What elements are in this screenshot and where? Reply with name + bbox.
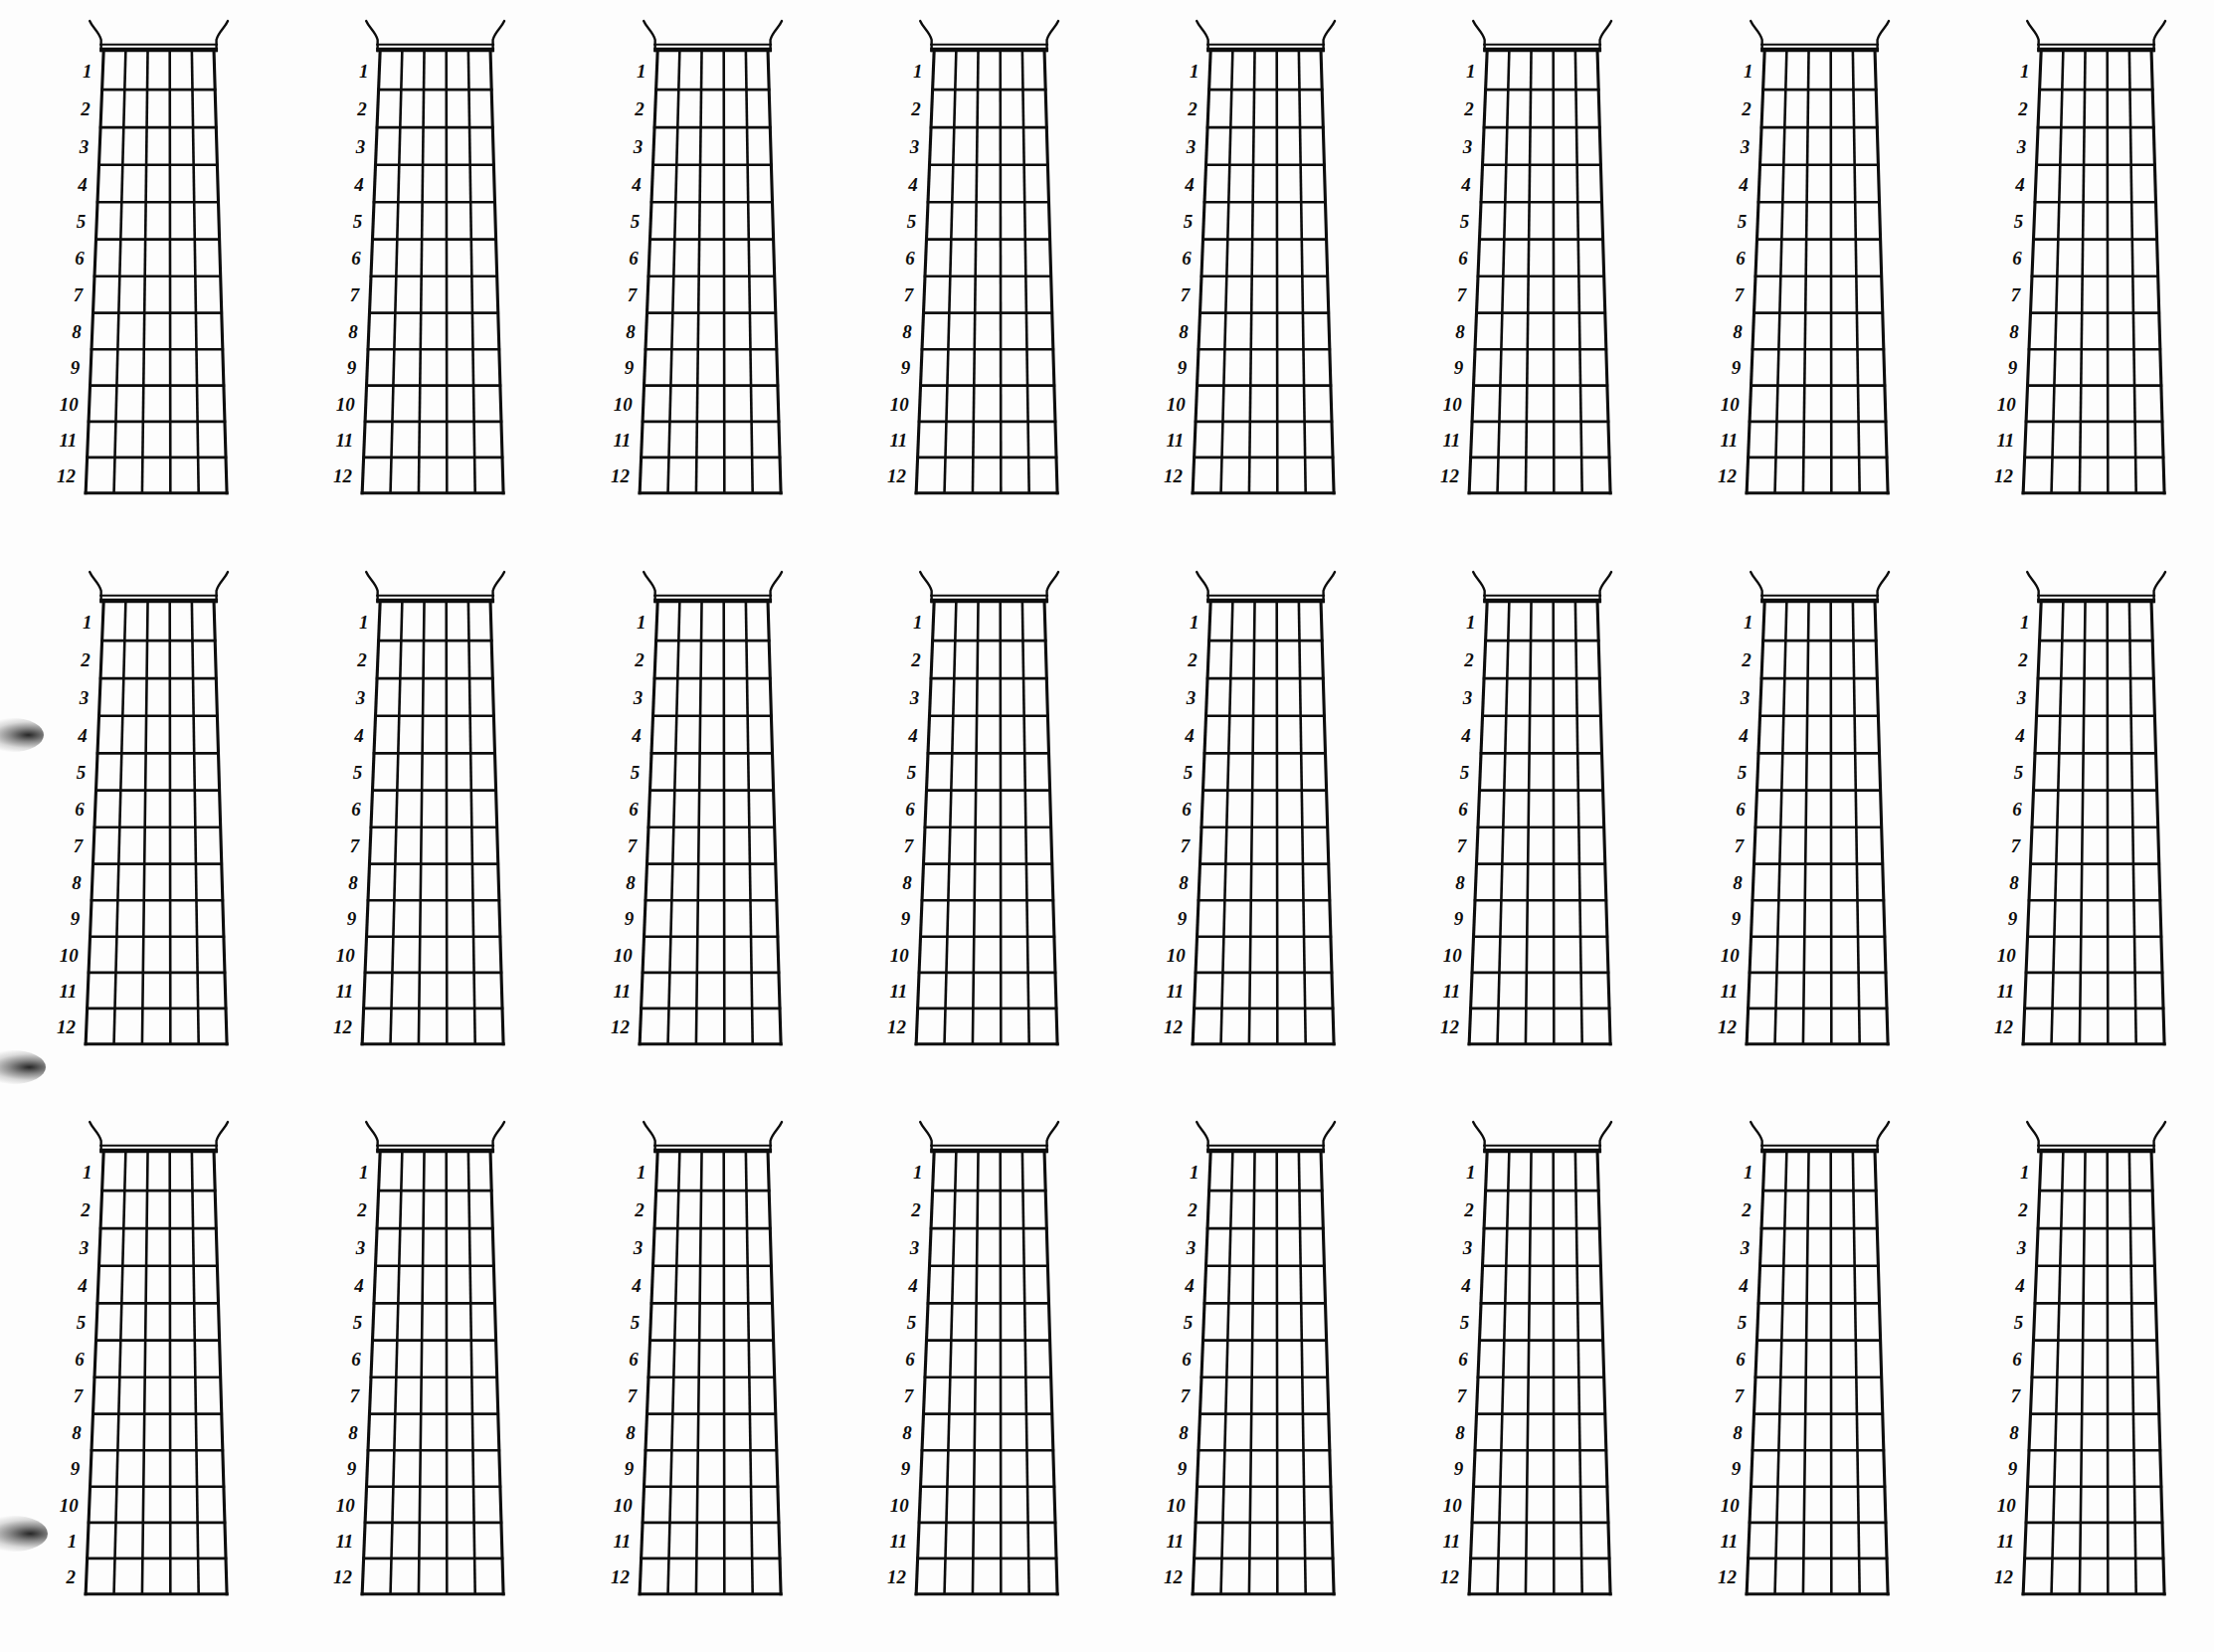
diagram-r2c1[interactable]: 123456789101112	[0, 551, 277, 1102]
string-line-5	[468, 52, 475, 493]
diagram-r1c1[interactable]: 123456789101112	[0, 0, 277, 551]
string-line-5	[2129, 52, 2136, 493]
fret-number-9: 9	[71, 357, 81, 378]
fret-number-4: 4	[631, 1275, 641, 1296]
string-line-4	[1000, 603, 1001, 1044]
diagram-r3c2[interactable]: 123456789101112	[277, 1101, 553, 1652]
fret-number-4: 4	[1738, 724, 1748, 745]
fret-number-3: 3	[1739, 1237, 1749, 1258]
fret-number-8: 8	[902, 321, 912, 342]
string-line-5	[192, 603, 199, 1044]
nut-hook-right	[1600, 1122, 1611, 1152]
fret-number-4: 4	[354, 174, 364, 195]
diagram-r1c4[interactable]: 123456789101112	[830, 0, 1107, 551]
diagram-r3c5[interactable]: 123456789101112	[1107, 1101, 1384, 1652]
fret-number-10: 10	[1167, 1495, 1186, 1516]
fret-number-10: 10	[60, 394, 79, 415]
diagram-r3c6[interactable]: 123456789101112	[1384, 1101, 1660, 1652]
fret-number-3: 3	[632, 1237, 642, 1258]
fret-number-labels: 123456789101112	[1717, 61, 1752, 486]
diagram-r3c1[interactable]: 1234567891012	[0, 1101, 277, 1652]
diagram-r2c2[interactable]: 123456789101112	[277, 551, 553, 1102]
diagram-r3c8[interactable]: 123456789101112	[1937, 1101, 2214, 1652]
nut-hook-right	[2153, 572, 2164, 602]
nut-hook-left	[366, 572, 377, 602]
fret-number-4: 4	[1461, 174, 1471, 195]
diagram-r1c8[interactable]: 123456789101112	[1937, 0, 2214, 551]
fret-number-1: 1	[2020, 1162, 2029, 1183]
fret-number-labels: 123456789101112	[1440, 61, 1475, 486]
fret-number-5: 5	[1460, 1312, 1469, 1333]
string-line-4	[170, 52, 171, 493]
fret-number-labels: 123456789101112	[1994, 612, 2029, 1037]
diagram-r2c7[interactable]: 123456789101112	[1661, 551, 1937, 1102]
fret-number-9: 9	[2008, 357, 2018, 378]
string-line-2	[391, 1153, 403, 1594]
diagram-r2c3[interactable]: 123456789101112	[554, 551, 830, 1102]
string-line-6	[1597, 1153, 1610, 1594]
fret-number-11: 11	[1996, 981, 2014, 1002]
string-line-6	[1875, 52, 1888, 493]
fret-number-3: 3	[79, 136, 89, 157]
fret-number-5: 5	[630, 762, 639, 783]
fret-number-labels: 123456789101112	[610, 61, 645, 486]
fretboard-graphic	[362, 21, 504, 493]
diagram-r3c3[interactable]: 123456789101112	[554, 1101, 830, 1652]
fret-number-6: 6	[352, 799, 362, 820]
string-line-2	[114, 52, 126, 493]
string-line-5	[2129, 1153, 2136, 1594]
fret-number-12: 12	[57, 1015, 76, 1036]
string-line-3	[973, 52, 979, 493]
string-line-3	[973, 1153, 979, 1594]
diagram-r1c5[interactable]: 123456789101112	[1107, 0, 1384, 551]
string-line-3	[142, 603, 148, 1044]
fret-number-10: 10	[1167, 394, 1186, 415]
fret-number-8: 8	[1179, 321, 1189, 342]
fretboard-graphic	[916, 1122, 1058, 1594]
string-line-3	[1802, 603, 1808, 1044]
diagram-r1c3[interactable]: 123456789101112	[554, 0, 830, 551]
fret-number-6: 6	[1459, 799, 1469, 820]
string-line-2	[2051, 52, 2063, 493]
fret-number-7: 7	[74, 1385, 85, 1406]
fret-number-12: 12	[1994, 465, 2013, 486]
fret-number-2: 2	[1464, 1199, 1475, 1220]
string-line-5	[1299, 603, 1306, 1044]
fret-number-2: 2	[1741, 649, 1752, 670]
string-line-6	[214, 603, 227, 1044]
fret-number-labels: 123456789101112	[1717, 612, 1752, 1037]
diagram-r2c8[interactable]: 123456789101112	[1937, 551, 2214, 1102]
diagram-r1c2[interactable]: 123456789101112	[277, 0, 553, 551]
fretboard-graphic	[2023, 21, 2165, 493]
fret-number-4: 4	[2014, 174, 2024, 195]
string-line-3	[1802, 52, 1808, 493]
diagram-r1c6[interactable]: 123456789101112	[1384, 0, 1660, 551]
string-line-3	[695, 1153, 701, 1594]
fret-number-8: 8	[72, 321, 82, 342]
fret-number-1: 1	[359, 61, 368, 82]
diagram-r2c6[interactable]: 123456789101112	[1384, 551, 1660, 1102]
diagram-r3c7[interactable]: 123456789101112	[1661, 1101, 1937, 1652]
fret-number-7: 7	[74, 284, 85, 305]
string-line-5	[1575, 1153, 1582, 1594]
string-line-4	[1830, 1153, 1831, 1594]
fret-number-9: 9	[901, 908, 911, 929]
nut-hook-left	[90, 1122, 100, 1152]
fret-number-12: 12	[1717, 465, 1736, 486]
fret-number-9: 9	[1178, 908, 1188, 929]
fret-number-12: 12	[1164, 1015, 1183, 1036]
fret-number-3: 3	[355, 687, 365, 708]
diagram-r2c4[interactable]: 123456789101112	[830, 551, 1107, 1102]
diagram-r2c5[interactable]: 123456789101112	[1107, 551, 1384, 1102]
diagram-r3c4[interactable]: 123456789101112	[830, 1101, 1107, 1652]
fretboard-graphic	[1193, 1122, 1335, 1594]
fret-number-7: 7	[627, 1385, 638, 1406]
fret-number-5: 5	[907, 211, 916, 232]
fret-number-8: 8	[2009, 872, 2019, 893]
fret-number-4: 4	[1184, 1275, 1194, 1296]
fret-number-8: 8	[626, 872, 636, 893]
diagram-r1c7[interactable]: 123456789101112	[1661, 0, 1937, 551]
string-line-6	[1044, 1153, 1057, 1594]
fretboard-graphic	[2023, 1122, 2165, 1594]
fret-number-labels: 123456789101112	[1440, 612, 1475, 1037]
